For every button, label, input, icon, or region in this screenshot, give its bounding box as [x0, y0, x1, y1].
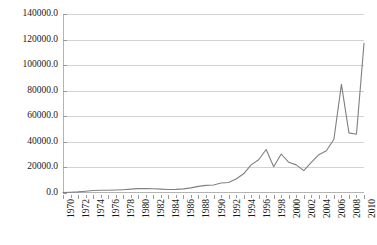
x-axis-tick-label: 1970 — [67, 199, 77, 218]
y-axis-tick — [63, 142, 67, 143]
x-axis-tick — [289, 195, 290, 199]
y-axis-tick-label: 40000.0 — [27, 137, 58, 147]
x-axis-tick-label: 2002 — [308, 199, 318, 218]
y-axis-tick-label: 0.0 — [46, 188, 58, 198]
x-axis-tick — [146, 195, 147, 198]
x-axis-tick — [311, 195, 312, 198]
x-axis-tick — [71, 195, 72, 198]
x-axis-tick-label: 2004 — [323, 199, 333, 218]
y-axis-tick — [63, 193, 67, 194]
x-axis-tick — [296, 195, 297, 198]
x-axis-tick-label: 1994 — [248, 199, 258, 218]
x-axis-tick-label: 1986 — [187, 199, 197, 218]
x-axis-tick — [176, 195, 177, 198]
x-axis-tick — [259, 195, 260, 199]
x-axis-tick — [251, 195, 252, 198]
x-axis-tick — [63, 195, 64, 199]
x-axis-tick — [138, 195, 139, 199]
y-axis-tick — [63, 91, 67, 92]
y-axis-tick — [63, 167, 67, 168]
x-axis-tick — [198, 195, 199, 199]
y-axis-tick — [63, 65, 67, 66]
x-axis-tick-label: 1992 — [233, 199, 243, 218]
x-axis-tick — [206, 195, 207, 198]
x-axis-tick — [236, 195, 237, 198]
y-axis-tick-label: 80000.0 — [27, 86, 58, 96]
plot-area — [63, 14, 364, 193]
y-axis-tick-label: 20000.0 — [27, 163, 58, 173]
x-axis-tick-label: 1974 — [97, 199, 107, 218]
x-axis-tick-label: 1980 — [142, 199, 152, 218]
x-axis-tick — [191, 195, 192, 198]
x-axis-tick-label: 1990 — [218, 199, 228, 218]
x-axis-tick-label: 1978 — [127, 199, 137, 218]
x-axis-tick — [161, 195, 162, 198]
x-axis-tick-label: 1976 — [112, 199, 122, 218]
x-axis-tick — [364, 195, 365, 199]
y-axis-tick — [63, 14, 67, 15]
x-axis-tick — [116, 195, 117, 198]
x-axis-tick — [93, 195, 94, 199]
line-chart: 0.020000.040000.060000.080000.0100000.01… — [0, 0, 377, 245]
x-axis-tick — [78, 195, 79, 199]
x-axis-tick-label: 1972 — [82, 199, 92, 218]
y-axis-tick-label: 140000.0 — [22, 9, 58, 19]
x-axis-tick-label: 1996 — [263, 199, 273, 218]
x-axis-tick-label: 2010 — [368, 199, 377, 218]
x-axis: 1970197219741976197819801982198419861988… — [63, 195, 364, 245]
x-axis-tick-label: 2006 — [338, 199, 348, 218]
x-axis-tick — [86, 195, 87, 198]
x-axis-tick — [214, 195, 215, 199]
y-axis-tick-label: 60000.0 — [27, 112, 58, 122]
y-axis: 0.020000.040000.060000.080000.0100000.01… — [0, 14, 58, 193]
x-axis-tick — [168, 195, 169, 199]
x-axis-tick-label: 1998 — [278, 199, 288, 218]
x-axis-tick — [334, 195, 335, 199]
series-polyline — [63, 43, 364, 192]
x-axis-tick — [274, 195, 275, 199]
x-axis-tick — [266, 195, 267, 198]
x-axis-tick-label: 1982 — [157, 199, 167, 218]
y-axis-tick — [63, 116, 67, 117]
x-axis-tick — [244, 195, 245, 199]
x-axis-tick — [229, 195, 230, 199]
x-axis-tick — [183, 195, 184, 199]
x-axis-tick — [319, 195, 320, 199]
x-axis-tick — [153, 195, 154, 199]
x-axis-tick-label: 1988 — [202, 199, 212, 218]
x-axis-tick-label: 2008 — [353, 199, 363, 218]
x-axis-tick-label: 1984 — [172, 199, 182, 218]
y-axis-tick-label: 120000.0 — [22, 35, 58, 45]
x-axis-tick — [108, 195, 109, 199]
x-axis-tick — [221, 195, 222, 198]
x-axis-tick — [304, 195, 305, 199]
x-axis-tick — [326, 195, 327, 198]
data-series-line — [63, 14, 364, 193]
x-axis-tick — [123, 195, 124, 199]
x-axis-tick — [131, 195, 132, 198]
y-axis-tick — [63, 40, 67, 41]
x-axis-tick — [349, 195, 350, 199]
x-axis-tick — [281, 195, 282, 198]
x-axis-tick — [341, 195, 342, 198]
x-axis-tick — [356, 195, 357, 198]
x-axis-tick — [101, 195, 102, 198]
x-axis-tick-label: 2000 — [293, 199, 303, 218]
y-axis-tick-label: 100000.0 — [22, 60, 58, 70]
